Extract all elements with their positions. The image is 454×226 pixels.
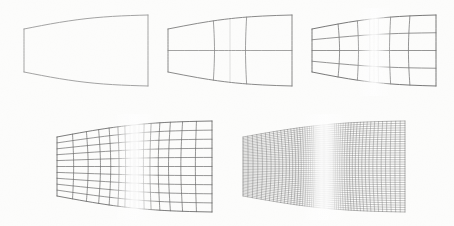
paper-grain-overlay <box>0 0 454 226</box>
figure-root <box>0 0 454 226</box>
mesh-refinement-figure <box>0 0 454 226</box>
